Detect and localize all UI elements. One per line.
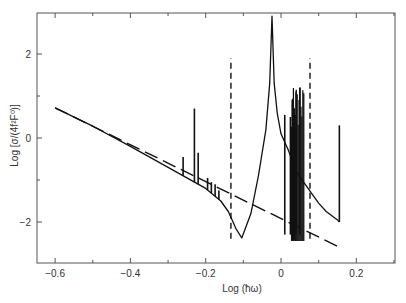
plot-frame — [37, 13, 395, 263]
x-tick-label: −0.2 — [196, 268, 216, 279]
y-tick-label: −2 — [20, 217, 32, 228]
x-tick-label: −0.4 — [121, 268, 141, 279]
x-tick-label: 0 — [278, 268, 284, 279]
chart: −0.6−0.4−0.200.2−202 Log [σ/(4f²F⁰)] Log… — [0, 0, 406, 303]
x-tick-label: 0.2 — [349, 268, 363, 279]
x-tick-label: −0.6 — [45, 268, 65, 279]
plot-area: −0.6−0.4−0.200.2−202 — [0, 0, 406, 303]
y-tick-label: 2 — [25, 49, 31, 60]
y-tick-label: 0 — [25, 133, 31, 144]
y-axis-label: Log [σ/(4f²F⁰)] — [9, 86, 20, 186]
x-axis-label: Log (ħω) — [192, 283, 292, 294]
